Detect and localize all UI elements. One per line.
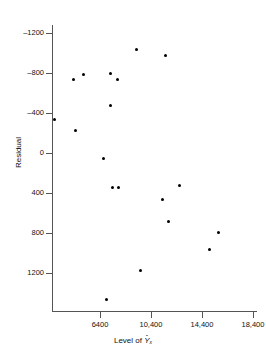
x-axis-title: Level of ˆYx [0, 336, 266, 345]
x-axis-tick [151, 312, 152, 318]
data-point [208, 248, 211, 251]
x-axis-tick [202, 312, 203, 318]
y-axis-tick-label: –1200 [0, 29, 44, 37]
y-axis-tick-label-text: 400 [4, 189, 44, 197]
x-axis-tick [253, 312, 254, 318]
x-axis-tick-label: 18,400 [223, 320, 266, 329]
y-axis-tick-label-text: 800 [4, 229, 44, 237]
data-point [117, 186, 120, 189]
data-point [139, 269, 142, 272]
y-axis-tick-label-text: –1200 [4, 29, 44, 37]
data-point [178, 184, 181, 187]
x-axis-title-prefix: Level of [114, 336, 144, 345]
x-axis-tick [100, 312, 101, 318]
y-axis-tick-label: 1200 [0, 269, 44, 277]
x-axis-title-variable: ˆY [144, 336, 149, 345]
data-point [102, 157, 105, 160]
y-axis-tick-label: –400 [0, 109, 44, 117]
y-axis-tick-label-text: –400 [4, 109, 44, 117]
plot-area [52, 25, 257, 312]
data-point [167, 220, 170, 223]
data-point [105, 298, 108, 301]
data-point [164, 54, 167, 57]
data-point [82, 73, 85, 76]
data-point [111, 186, 114, 189]
data-point [72, 78, 75, 81]
data-point [109, 104, 112, 107]
y-axis-tick-label: 0 [0, 149, 44, 157]
y-axis-tick-label-text: 0 [4, 149, 44, 157]
y-axis-tick-label-text: 1200 [4, 269, 44, 277]
data-point [116, 78, 119, 81]
y-axis-tick-label: 800 [0, 229, 44, 237]
data-point [53, 118, 56, 121]
data-point [74, 129, 77, 132]
data-point [109, 72, 112, 75]
data-point [161, 198, 164, 201]
y-axis-tick-label-text: –800 [4, 69, 44, 77]
data-point [135, 48, 138, 51]
hat-accent-icon: ˆ [144, 334, 149, 341]
y-axis-tick-label: –800 [0, 69, 44, 77]
data-point [217, 231, 220, 234]
y-axis-tick-label: 400 [0, 189, 44, 197]
residual-scatter-plot-figure: Residual Level of ˆYx –1200–800–40004008… [0, 0, 266, 356]
